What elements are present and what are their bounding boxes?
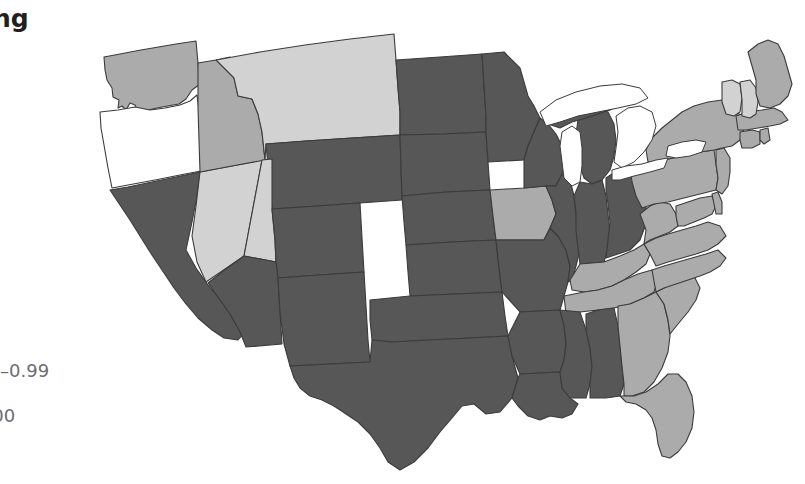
legend-item: ≥1.00 — [0, 403, 49, 429]
state-mo — [496, 228, 570, 312]
state-ar — [508, 310, 566, 374]
us-choropleth-map — [0, 0, 805, 484]
state-md — [676, 196, 716, 226]
state-ok — [370, 292, 508, 342]
figure-subtitle: s — [0, 35, 128, 51]
state-nm — [278, 272, 370, 366]
legend-item: 0.50–0.99 — [0, 358, 49, 384]
us-map-svg — [0, 0, 805, 484]
state-sd — [400, 132, 490, 196]
state-in — [574, 180, 610, 264]
state-ne — [402, 190, 496, 245]
state-ri — [760, 128, 770, 144]
state-ia — [490, 186, 556, 240]
state-nd — [396, 54, 486, 135]
choropleth-figure: Mapping s — [0, 0, 805, 484]
state-co — [272, 203, 364, 278]
state-nj — [716, 148, 730, 194]
title-block: Mapping s — [0, 4, 128, 51]
state-ks — [406, 240, 502, 296]
state-wa — [104, 41, 200, 112]
state-ct — [740, 130, 760, 148]
state-wy — [266, 135, 402, 209]
page-title: Mapping — [0, 4, 128, 34]
legend: 0.50–0.99 ≥1.00 — [0, 358, 49, 448]
state-vt — [722, 80, 742, 116]
legend-label-0: 0.50–0.99 — [0, 361, 49, 381]
legend-label-1: ≥1.00 — [0, 406, 15, 426]
state-nh — [740, 80, 758, 118]
